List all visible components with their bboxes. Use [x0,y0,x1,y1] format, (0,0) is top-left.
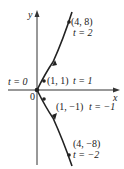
point-4-neg8 [67,153,71,157]
param-label-t2: t = 2 [73,28,93,38]
y-axis-label: y [28,10,32,20]
param-label-tneg1: t = −1 [89,102,115,112]
origin-label: 0 [30,92,35,102]
param-label-t1: t = 1 [73,76,93,86]
param-label-tneg2: t = −2 [73,150,99,160]
point-1-neg1 [42,97,46,101]
y-axis-arrow-icon [35,10,40,17]
point-label-1-neg1: (1, −1) [56,102,83,112]
point-1-1 [42,79,46,83]
point-label-4-8: (4, 8) [71,17,93,27]
point-label-1-1: (1, 1) [47,76,69,86]
point-origin [35,88,40,93]
param-label-t0: t = 0 [8,77,28,87]
point-label-4-neg8: (4, −8) [73,139,100,149]
